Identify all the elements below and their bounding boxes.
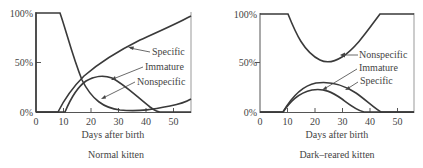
- x-tick: 10: [59, 116, 69, 127]
- x-tick: 30: [114, 116, 124, 127]
- y-tick-100: 100%: [10, 8, 33, 19]
- panel-dark-reared-kitten: 100% 50% 0% 0 10 20 30 40 50 Days after …: [234, 9, 414, 160]
- annotation-nonspecific: Nonspecific: [359, 49, 408, 60]
- x-tick: 40: [141, 116, 151, 127]
- panel-normal-kitten: 100% 50% 0% 0 10 20 30 40 50 Days after …: [10, 8, 191, 160]
- y-tick-0: 0%: [20, 107, 33, 118]
- y-tick-100: 100%: [234, 9, 257, 20]
- y-tick-50: 50%: [15, 57, 33, 68]
- x-tick: 20: [86, 116, 96, 127]
- curve-immature: [260, 82, 414, 112]
- x-axis-label: Days after birth: [306, 129, 369, 140]
- annotation-nonspecific: Nonspecific: [137, 76, 186, 87]
- caption-normal-kitten: Normal kitten: [88, 149, 144, 160]
- y-tick-0: 0%: [244, 107, 257, 118]
- annotation-immature: Immature: [145, 61, 184, 72]
- x-tick: 50: [169, 116, 179, 127]
- x-tick: 30: [338, 116, 348, 127]
- x-tick: 10: [283, 116, 293, 127]
- x-tick: 0: [258, 116, 263, 127]
- annotation-specific: Specific: [360, 75, 393, 86]
- x-axis-label: Days after birth: [82, 129, 145, 140]
- annotation-immature: Immature: [359, 62, 398, 73]
- curve-specific: [260, 89, 414, 112]
- x-tick: 40: [365, 116, 375, 127]
- x-tick: 0: [34, 116, 39, 127]
- x-tick: 50: [393, 116, 403, 127]
- y-axis: 100% 50% 0%: [234, 9, 260, 118]
- figure: 100% 50% 0% 0 10 20 30 40 50 Days after …: [0, 0, 423, 168]
- x-tick: 20: [310, 116, 320, 127]
- annotation-specific: Specific: [152, 46, 185, 57]
- y-tick-50: 50%: [239, 57, 257, 68]
- caption-dark-reared-kitten: Dark–reared kitten: [299, 149, 374, 160]
